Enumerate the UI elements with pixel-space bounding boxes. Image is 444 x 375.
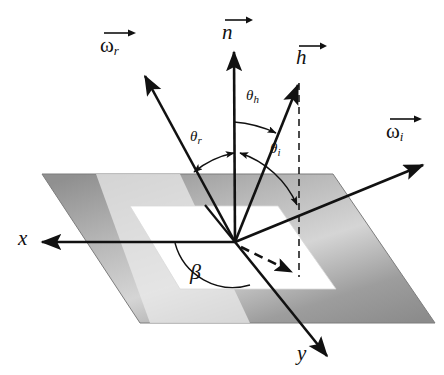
vector-label-omega-i-subscript: i xyxy=(400,129,404,144)
vector-label-omega-r: ωr xyxy=(100,27,137,57)
vector-label-omega-r-text: ω xyxy=(100,33,114,57)
vector-label-omega-i: ωi xyxy=(386,113,423,143)
vector-label-h: h xyxy=(296,40,328,68)
theta-r-arc xyxy=(194,153,234,172)
axis-label-x: x xyxy=(18,228,27,249)
angle-label-theta-h-subscript: h xyxy=(253,93,259,105)
theta-h-arc xyxy=(234,122,276,133)
axis-label-y: y xyxy=(297,343,306,364)
vector-label-h-text: h xyxy=(296,45,307,69)
angle-label-beta: β xyxy=(190,261,201,283)
vector-label-omega-r-subscript: r xyxy=(114,43,119,58)
angle-label-theta-h: θh xyxy=(246,88,259,105)
angle-label-theta-i: θi xyxy=(270,141,280,158)
angle-label-theta-r: θr xyxy=(190,129,202,146)
diagram-canvas xyxy=(0,0,444,375)
vector-label-n-text: n xyxy=(222,20,233,44)
angle-label-theta-i-subscript: i xyxy=(277,146,280,158)
vector-label-omega-i-text: ω xyxy=(386,119,400,143)
angle-label-theta-r-subscript: r xyxy=(197,134,201,146)
ground-plane-group xyxy=(42,174,435,323)
vector-label-n: n xyxy=(222,14,254,43)
vector-n-line xyxy=(234,52,235,242)
reflection-geometry-figure: n ωr h ωi x y θh θr θi β xyxy=(0,0,444,375)
